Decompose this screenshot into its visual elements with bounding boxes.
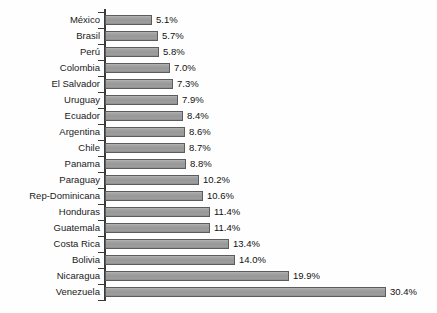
bar-row: Brasil5.7% <box>0 28 437 44</box>
category-label: Uruguay <box>0 92 100 108</box>
bar-chart: México5.1%Brasil5.7%Perú5.8%Colombia7.0%… <box>0 0 437 313</box>
bar <box>105 191 203 201</box>
bar <box>105 63 170 73</box>
bar-row: Guatemala11.4% <box>0 220 437 236</box>
category-label: Ecuador <box>0 108 100 124</box>
bar <box>105 111 183 121</box>
axis-tick <box>98 12 105 13</box>
bar-value-label: 7.0% <box>170 63 196 73</box>
bar-row: Panama8.8% <box>0 156 437 172</box>
category-label: Brasil <box>0 28 100 44</box>
bar <box>105 223 210 233</box>
axis-tick <box>98 124 105 125</box>
bar <box>105 287 386 297</box>
axis-tick <box>98 76 105 77</box>
axis-tick-end <box>98 300 105 301</box>
bar-row: México5.1% <box>0 12 437 28</box>
bar-row: Colombia7.0% <box>0 60 437 76</box>
bar <box>105 175 199 185</box>
bar-row: Rep-Dominicana10.6% <box>0 188 437 204</box>
bar-value-label: 8.4% <box>183 111 209 121</box>
bar <box>105 79 173 89</box>
bar <box>105 143 185 153</box>
bar-row: Nicaragua19.9% <box>0 268 437 284</box>
bar-row: Ecuador8.4% <box>0 108 437 124</box>
axis-tick <box>98 172 105 173</box>
bar <box>105 255 235 265</box>
category-label: Venezuela <box>0 284 100 300</box>
category-label: Chile <box>0 140 100 156</box>
bar-value-label: 5.8% <box>159 47 185 57</box>
category-label: El Salvador <box>0 76 100 92</box>
bar <box>105 127 185 137</box>
category-label: Nicaragua <box>0 268 100 284</box>
category-label: Guatemala <box>0 220 100 236</box>
axis-tick <box>98 188 105 189</box>
axis-tick <box>98 60 105 61</box>
axis-tick <box>98 220 105 221</box>
bar-row: Uruguay7.9% <box>0 92 437 108</box>
category-label: Bolivia <box>0 252 100 268</box>
bar-value-label: 7.9% <box>178 95 204 105</box>
bar-value-label: 8.7% <box>185 143 211 153</box>
bar <box>105 207 210 217</box>
bar-value-label: 13.4% <box>229 239 260 249</box>
bar-value-label: 14.0% <box>235 255 266 265</box>
category-label: Costa Rica <box>0 236 100 252</box>
bar-value-label: 11.4% <box>210 207 240 217</box>
category-label: Panama <box>0 156 100 172</box>
bar-value-label: 5.1% <box>152 15 178 25</box>
bar <box>105 159 186 169</box>
bar <box>105 95 178 105</box>
bar <box>105 271 289 281</box>
bar-row: Argentina8.6% <box>0 124 437 140</box>
category-label: Argentina <box>0 124 100 140</box>
bar-row: Honduras11.4% <box>0 204 437 220</box>
category-label: Paraguay <box>0 172 100 188</box>
bar-value-label: 30.4% <box>386 287 417 297</box>
bar-value-label: 10.2% <box>199 175 230 185</box>
plot-area: México5.1%Brasil5.7%Perú5.8%Colombia7.0%… <box>0 0 437 313</box>
bar-value-label: 8.8% <box>186 159 212 169</box>
bar-row: Chile8.7% <box>0 140 437 156</box>
category-label: Perú <box>0 44 100 60</box>
bar-value-label: 11.4% <box>210 223 240 233</box>
category-label: Rep-Dominicana <box>0 188 100 204</box>
category-label: Colombia <box>0 60 100 76</box>
category-label: México <box>0 12 100 28</box>
bar <box>105 47 159 57</box>
axis-tick <box>98 108 105 109</box>
axis-tick <box>98 156 105 157</box>
axis-tick <box>98 252 105 253</box>
bar-value-label: 7.3% <box>173 79 199 89</box>
bar <box>105 15 152 25</box>
bar-value-label: 19.9% <box>289 271 320 281</box>
bar-value-label: 5.7% <box>158 31 184 41</box>
bar <box>105 31 158 41</box>
bar-value-label: 10.6% <box>203 191 234 201</box>
axis-tick <box>98 284 105 285</box>
axis-tick <box>98 44 105 45</box>
axis-tick <box>98 28 105 29</box>
bar-row: Perú5.8% <box>0 44 437 60</box>
axis-tick <box>98 204 105 205</box>
bar <box>105 239 229 249</box>
axis-tick <box>98 140 105 141</box>
bar-row: El Salvador7.3% <box>0 76 437 92</box>
bar-row: Venezuela30.4% <box>0 284 437 300</box>
category-label: Honduras <box>0 204 100 220</box>
bar-value-label: 8.6% <box>185 127 211 137</box>
bar-row: Paraguay10.2% <box>0 172 437 188</box>
axis-tick <box>98 236 105 237</box>
axis-tick <box>98 92 105 93</box>
bar-row: Bolivia14.0% <box>0 252 437 268</box>
axis-tick <box>98 268 105 269</box>
bar-row: Costa Rica13.4% <box>0 236 437 252</box>
